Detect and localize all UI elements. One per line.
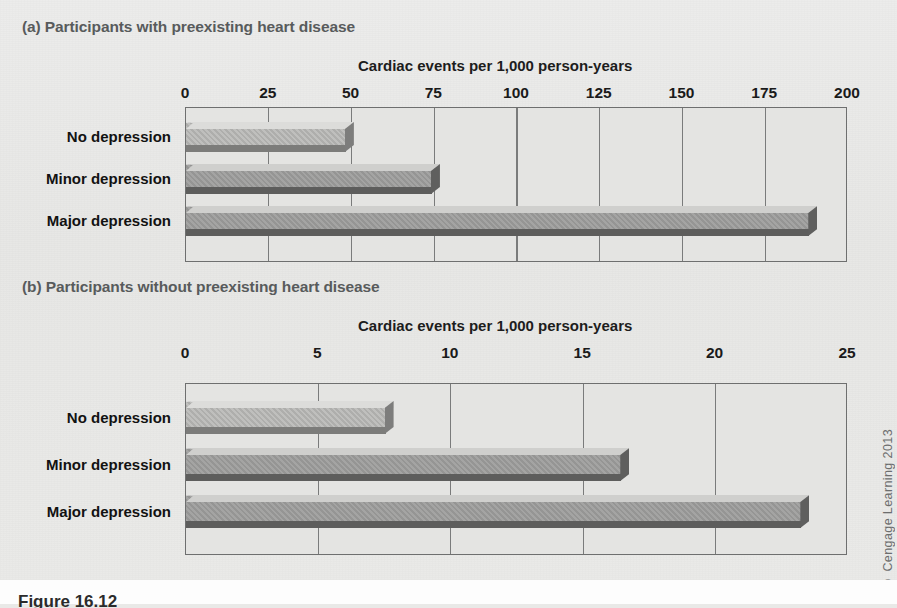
bar-no-depression [186,401,394,434]
bar-bottom-shadow [186,427,386,434]
bar-minor-depression [186,448,629,481]
panel-b-plot-area [185,383,847,555]
bar-bottom-shadow [186,474,621,481]
x-axis-tick-label: 0 [181,84,190,102]
bar-top-face [186,401,394,408]
bar-top-face [186,448,629,455]
bar-major-depression [186,206,817,236]
bar-bottom-shadow [186,521,801,528]
gridline [599,108,600,261]
x-axis-tick-label: 5 [313,344,322,362]
bar-no-depression [186,122,354,152]
bar-top-face [186,164,440,171]
bar-bottom-shadow [186,145,346,152]
x-axis-tick-label: 15 [574,344,591,362]
gridline [682,108,683,261]
panel-b-title: (b) Participants without preexisting hea… [22,278,380,296]
x-axis-tick-label: 25 [259,84,276,102]
category-label-minor-depression: Minor depression [0,455,171,472]
category-label-minor-depression: Minor depression [0,170,171,187]
x-axis-tick-label: 0 [181,344,190,362]
category-label-no-depression: No depression [0,408,171,425]
bar-major-depression [186,495,809,528]
copyright-notice: © Cengage Learning 2013 [881,429,895,590]
x-axis-tick-label: 10 [441,344,458,362]
x-axis-tick-label: 20 [706,344,723,362]
panel-b-axis-title: Cardiac events per 1,000 person-years [358,317,632,334]
x-axis-tick-label: 150 [669,84,695,102]
x-axis-tick-label: 75 [425,84,442,102]
x-axis-tick-label: 200 [834,84,860,102]
bar-top-face [186,206,817,213]
x-axis-tick-label: 50 [342,84,359,102]
category-label-no-depression: No depression [0,128,171,145]
x-axis-tick-label: 100 [503,84,529,102]
gridline [715,384,716,554]
category-label-major-depression: Major depression [0,502,171,519]
panel-a-axis-title: Cardiac events per 1,000 person-years [358,57,632,74]
gridline [765,108,766,261]
page-bottom-strip [0,580,897,604]
x-axis-tick-label: 125 [586,84,612,102]
bar-minor-depression [186,164,440,194]
bar-top-face [186,495,809,502]
gridline [516,108,517,261]
x-axis-tick-label: 175 [751,84,777,102]
x-axis-tick-label: 25 [838,344,855,362]
panel-a-title: (a) Participants with preexisting heart … [22,18,355,36]
figure-caption: Figure 16.12 [18,592,117,608]
panel-a-plot-area [185,107,847,262]
bar-top-face [186,122,354,129]
bar-bottom-shadow [186,187,432,194]
bar-bottom-shadow [186,229,809,236]
category-label-major-depression: Major depression [0,212,171,229]
